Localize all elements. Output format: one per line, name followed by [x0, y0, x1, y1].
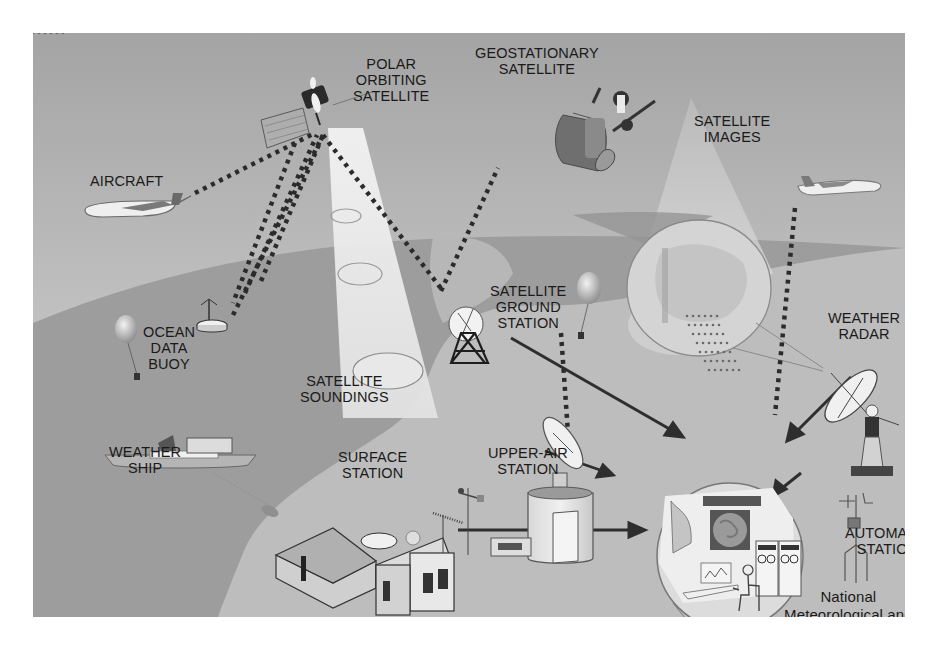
label-satellite-soundings: SATELLITE SOUNDINGS	[300, 373, 389, 405]
label-upper-air-station: UPPER-AIR STATION	[488, 445, 568, 477]
label-surface-station: SURFACE STATION	[338, 449, 407, 481]
label-weather-ship: WEATHER SHIP	[109, 444, 181, 476]
label-aircraft: AIRCRAFT	[90, 173, 163, 189]
label-satellite-ground-station: SATELLITE GROUND STATION	[490, 283, 566, 331]
diagram-frame: POLAR ORBITING SATELLITE GEOSTATIONARY S…	[33, 33, 905, 617]
label-geostationary-satellite: GEOSTATIONARY SATELLITE	[475, 45, 599, 77]
label-automatic-station: AUTOMATIC STATION	[845, 525, 905, 557]
label-satellite-images: SATELLITE IMAGES	[694, 113, 770, 145]
label-weather-radar: WEATHER RADAR	[828, 310, 900, 342]
label-polar-orbiting-satellite: POLAR ORBITING SATELLITE	[353, 56, 429, 104]
label-ocean-data-buoy: OCEAN DATA BUOY	[143, 324, 195, 372]
label-national-meteorological-service: National Meteorological and Hydrological…	[779, 588, 905, 617]
